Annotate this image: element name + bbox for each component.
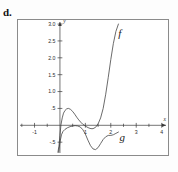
axis-label-y: y xyxy=(62,20,66,24)
figure-container: d. -11234.51.01.52.02.53.0-.5 fgxy xyxy=(0,0,178,172)
plot-frame: -11234.51.01.52.02.53.0-.5 fgxy xyxy=(17,19,169,156)
figure-item-label: d. xyxy=(3,6,12,18)
plot-canvas: -11234.51.01.52.02.53.0-.5 fgxy xyxy=(18,20,168,155)
x-tick-label: 4 xyxy=(160,129,163,135)
x-axis-arrow xyxy=(162,124,166,128)
axes-layer: -11234.51.01.52.02.53.0-.5 xyxy=(20,21,166,153)
y-tick-label: 3.0 xyxy=(48,21,55,27)
axis-label-x: x xyxy=(162,116,166,122)
curve-label-f: f xyxy=(118,27,123,39)
y-tick-label: 2.0 xyxy=(48,55,55,61)
y-neg-tick-label: -.5 xyxy=(49,139,55,145)
curve-label-g: g xyxy=(119,131,125,143)
x-tick-label: 2 xyxy=(109,129,112,135)
y-tick-label: 1.5 xyxy=(48,72,55,78)
x-tick-label: -1 xyxy=(32,129,37,135)
y-tick-label: 1.0 xyxy=(48,88,55,94)
y-tick-label: .5 xyxy=(51,105,55,111)
x-tick-label: 3 xyxy=(135,129,138,135)
y-tick-label: 2.5 xyxy=(48,38,55,44)
